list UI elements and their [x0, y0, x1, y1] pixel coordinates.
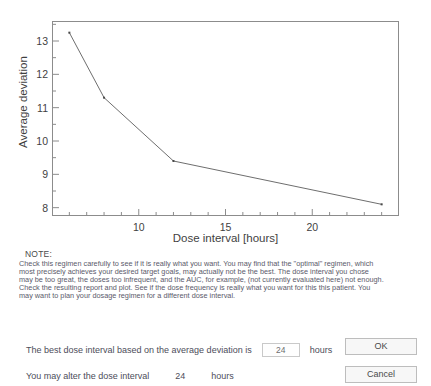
x-axis-title: Dose interval [hours] [52, 232, 399, 244]
y-tick-label: 13 [26, 36, 48, 47]
data-point [381, 203, 383, 205]
y-tick-label: 12 [26, 69, 48, 80]
note-line: may want to plan your dosage regimen for… [19, 292, 419, 300]
best-interval-row: The best dose interval based on the aver… [26, 340, 332, 360]
y-axis-title: Average deviation [17, 32, 29, 172]
note-body: Check this regimen carefully to see if i… [19, 260, 419, 300]
y-tick-label: 10 [26, 136, 48, 147]
cancel-button[interactable]: Cancel [345, 366, 417, 383]
y-tick-label: 9 [26, 169, 48, 180]
ok-button[interactable]: OK [345, 338, 417, 355]
note-heading: NOTE: [25, 249, 419, 259]
form-area: The best dose interval based on the aver… [0, 318, 431, 382]
best-interval-input[interactable] [262, 343, 300, 357]
y-tick-label: 8 [26, 203, 48, 214]
note-block: NOTE: Check this regimen carefully to se… [19, 249, 419, 300]
data-point [68, 32, 70, 34]
plot-canvas [52, 21, 399, 216]
alter-interval-input[interactable] [159, 370, 201, 382]
x-tick-label: 20 [297, 222, 327, 233]
data-line [69, 33, 381, 205]
alter-interval-label: You may alter the dose interval [26, 371, 149, 381]
alter-interval-unit: hours [211, 371, 234, 381]
chart-panel: 8910111213 101520 Average deviation Dose… [0, 0, 431, 246]
y-tick-label: 11 [26, 103, 48, 114]
data-point [103, 97, 105, 99]
best-interval-unit: hours [310, 345, 333, 355]
data-point [172, 160, 174, 162]
x-tick-label: 10 [124, 222, 154, 233]
alter-interval-row: You may alter the dose interval hours [26, 366, 234, 386]
x-tick-label: 15 [211, 222, 241, 233]
best-interval-label: The best dose interval based on the aver… [26, 345, 252, 355]
